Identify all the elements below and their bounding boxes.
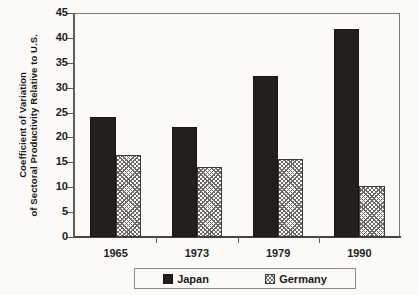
legend-label-japan: Japan — [177, 273, 209, 285]
y-tick-label-40: 40 — [28, 31, 68, 43]
legend-swatch-germany-icon — [265, 274, 275, 284]
bar-germany-1973 — [197, 167, 222, 237]
x-tick-label-1979: 1979 — [243, 247, 313, 259]
bar-japan-1979 — [253, 76, 278, 237]
bar-germany-1965 — [116, 155, 141, 237]
x-tick-label-1973: 1973 — [162, 247, 232, 259]
y-tick-label-45: 45 — [28, 6, 68, 18]
legend-item-japan: Japan — [163, 273, 209, 285]
bar-japan-1965 — [90, 117, 115, 237]
y-tick-label-5: 5 — [28, 205, 68, 217]
chart-figure: Coefficient of Variation of Sectoral Pro… — [0, 0, 418, 295]
x-tick-0 — [156, 236, 157, 243]
x-tick-1 — [238, 236, 239, 243]
x-tick-label-1990: 1990 — [324, 247, 394, 259]
y-tick-label-10: 10 — [28, 180, 68, 192]
y-tick-label-20: 20 — [28, 130, 68, 142]
legend-label-germany: Germany — [279, 273, 327, 285]
bars-layer — [75, 14, 400, 237]
bar-japan-1973 — [172, 127, 197, 238]
chart-legend: Japan Germany — [134, 268, 356, 289]
bar-germany-1979 — [278, 159, 303, 237]
y-tick-label-25: 25 — [28, 106, 68, 118]
y-tick-label-15: 15 — [28, 155, 68, 167]
legend-swatch-japan-icon — [163, 274, 173, 284]
y-tick-label-30: 30 — [28, 81, 68, 93]
y-tick-label-35: 35 — [28, 56, 68, 68]
bar-japan-1990 — [334, 29, 359, 237]
y-axis-title-line-1: Coefficient of Variation — [18, 72, 28, 178]
y-tick-label-0: 0 — [28, 230, 68, 242]
bar-germany-1990 — [359, 186, 384, 237]
legend-item-germany: Germany — [265, 273, 327, 285]
x-tick-2 — [319, 236, 320, 243]
x-tick-label-1965: 1965 — [81, 247, 151, 259]
